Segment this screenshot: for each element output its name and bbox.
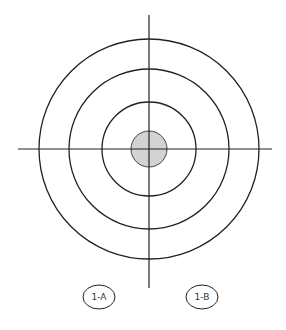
label-1a: 1-A [83,285,115,309]
label-1b: 1-B [186,285,218,309]
target-diagram: 1-A 1-B [0,0,286,330]
label-1a-text: 1-A [92,292,108,302]
label-1b-text: 1-B [195,292,210,302]
